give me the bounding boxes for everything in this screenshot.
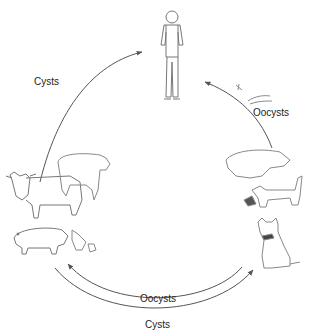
life-cycle-diagram: Cysts Oocysts Oocysts Cysts [0, 0, 312, 336]
sheep-icon [58, 154, 110, 200]
label-cysts-bottom: Cysts [145, 319, 170, 330]
diagram-canvas [0, 0, 312, 336]
cat-eating-icon [244, 176, 302, 207]
cat-lying-icon [226, 150, 290, 178]
human-figure-icon [161, 11, 183, 99]
arrow-cysts-to-human [40, 52, 142, 182]
label-oocysts-right: Oocysts [253, 107, 289, 118]
fly-icon [236, 84, 272, 104]
label-cysts-top: Cysts [34, 76, 59, 87]
cow-icon [6, 172, 82, 218]
label-oocysts-bottom: Oocysts [140, 293, 176, 304]
cat-sitting-icon [258, 218, 300, 268]
pig-icon [14, 228, 68, 254]
chicken-icon [72, 230, 96, 252]
